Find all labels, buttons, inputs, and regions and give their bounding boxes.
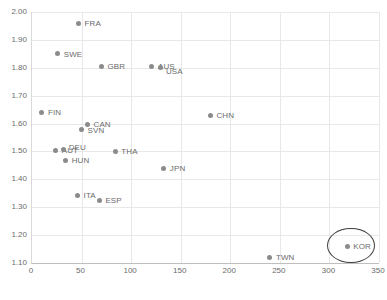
gridline-vertical bbox=[379, 12, 380, 263]
gridline-horizontal bbox=[32, 40, 379, 41]
gridline-vertical bbox=[230, 12, 231, 263]
data-point-label: JPN bbox=[170, 164, 185, 173]
data-point[interactable] bbox=[61, 147, 66, 152]
x-axis-tick-label: 150 bbox=[173, 266, 186, 275]
data-point[interactable] bbox=[99, 64, 104, 69]
data-point[interactable] bbox=[76, 21, 81, 26]
y-axis-tick-label: 1.50 bbox=[11, 146, 27, 155]
y-axis-tick-label: 1.90 bbox=[11, 35, 27, 44]
data-point[interactable] bbox=[53, 148, 58, 153]
gridline-horizontal bbox=[32, 207, 379, 208]
data-point-label: ESP bbox=[105, 196, 121, 205]
data-point[interactable] bbox=[55, 51, 60, 56]
y-axis-tick-labels: 1.101.201.301.401.501.601.701.801.902.00 bbox=[0, 12, 27, 264]
data-point-label: FRA bbox=[85, 19, 101, 28]
data-point-label: GBR bbox=[107, 62, 125, 71]
data-point[interactable] bbox=[63, 158, 68, 163]
y-axis-tick-label: 2.00 bbox=[11, 7, 27, 16]
data-point-label: USA bbox=[166, 67, 183, 76]
data-point[interactable] bbox=[208, 113, 213, 118]
data-point[interactable] bbox=[97, 198, 102, 203]
y-axis-tick-label: 1.20 bbox=[11, 230, 27, 239]
data-point-label: SWE bbox=[64, 50, 83, 59]
gridline-horizontal bbox=[32, 96, 379, 97]
gridline-horizontal bbox=[32, 179, 379, 180]
data-point-label: DEU bbox=[69, 143, 86, 152]
data-point[interactable] bbox=[39, 110, 44, 115]
y-axis-tick-label: 1.60 bbox=[11, 119, 27, 128]
scatter-chart-figure: 1.101.201.301.401.501.601.701.801.902.00… bbox=[0, 0, 387, 300]
highlight-ellipse-annotation bbox=[327, 228, 375, 263]
data-point-label: TWN bbox=[276, 253, 295, 262]
x-axis-tick-label: 350 bbox=[371, 266, 384, 275]
y-axis-tick-label: 1.10 bbox=[11, 258, 27, 267]
gridline-horizontal bbox=[32, 68, 379, 69]
gridline-horizontal bbox=[32, 12, 379, 13]
y-axis-tick-label: 1.80 bbox=[11, 63, 27, 72]
x-axis-tick-label: 250 bbox=[272, 266, 285, 275]
gridline-vertical bbox=[181, 12, 182, 263]
y-axis-tick-label: 1.40 bbox=[11, 174, 27, 183]
x-axis-tick-label: 0 bbox=[29, 266, 33, 275]
gridline-vertical bbox=[280, 12, 281, 263]
data-point-label: ITA bbox=[84, 191, 96, 200]
data-point[interactable] bbox=[75, 193, 80, 198]
data-point[interactable] bbox=[161, 166, 166, 171]
gridline-vertical bbox=[329, 12, 330, 263]
data-point[interactable] bbox=[267, 255, 272, 260]
x-axis-tick-label: 300 bbox=[322, 266, 335, 275]
gridline-horizontal bbox=[32, 235, 379, 236]
data-point-label: SVN bbox=[88, 126, 105, 135]
data-point-label: THA bbox=[121, 147, 137, 156]
y-axis-tick-label: 1.30 bbox=[11, 202, 27, 211]
y-axis-tick-label: 1.70 bbox=[11, 91, 27, 100]
x-axis-tick-label: 100 bbox=[123, 266, 136, 275]
x-axis-tick-label: 50 bbox=[76, 266, 85, 275]
x-axis-tick-labels: 050100150200250300350 bbox=[31, 266, 379, 284]
data-point-label: CHN bbox=[216, 111, 234, 120]
gridline-vertical bbox=[131, 12, 132, 263]
data-point-label: HUN bbox=[72, 156, 90, 165]
data-point[interactable] bbox=[113, 149, 118, 154]
plot-area: FRASWEGBRAUSUSAFINCHNCANSVNAUTDEUTHAHUNJ… bbox=[31, 12, 379, 264]
x-axis-tick-label: 200 bbox=[223, 266, 236, 275]
data-point-label: FIN bbox=[48, 108, 61, 117]
data-point[interactable] bbox=[79, 127, 84, 132]
